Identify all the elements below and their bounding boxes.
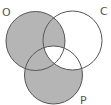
label-p: P bbox=[80, 94, 87, 105]
venn-diagram: O C P bbox=[0, 0, 111, 105]
label-o: O bbox=[2, 6, 11, 19]
label-c: C bbox=[100, 5, 108, 18]
